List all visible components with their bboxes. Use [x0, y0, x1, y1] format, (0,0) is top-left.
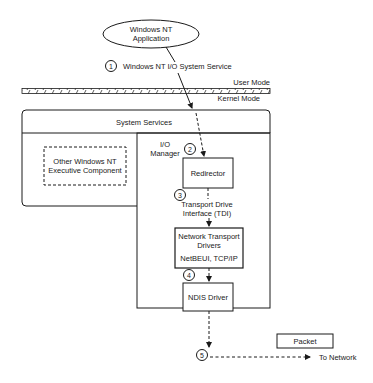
other-executive-component: Other Windows NT Executive Component — [44, 147, 126, 185]
ndis-label: NDIS Driver — [188, 293, 229, 302]
user-mode-label: User Mode — [233, 78, 270, 87]
packet-node: Packet — [277, 334, 333, 348]
tdi-label-line2: Interface (TDI) — [183, 209, 232, 218]
other-component-line2: Executive Component — [48, 166, 122, 175]
step-1-label: Windows NT I/O System Service — [123, 62, 232, 71]
application-label-line1: Windows NT — [130, 25, 173, 34]
transport-line2: Drivers — [197, 241, 221, 250]
tdi-label-line1: Transport Drive — [181, 200, 232, 209]
app-arrow-top — [166, 47, 175, 62]
step-1-number: 1 — [109, 63, 113, 70]
mode-boundary-bar — [22, 89, 270, 94]
ndis-driver-node: NDIS Driver — [183, 283, 233, 311]
transport-line3: NetBEUI, TCP/IP — [180, 254, 237, 263]
step-2-number: 2 — [188, 146, 192, 153]
transport-line1: Network Transport — [178, 232, 240, 241]
to-network-label: To Network — [319, 353, 357, 362]
step-5-number: 5 — [200, 352, 204, 359]
network-transport-node: Network Transport Drivers NetBEUI, TCP/I… — [175, 228, 243, 268]
step-1: 1 Windows NT I/O System Service — [106, 61, 232, 72]
application-node: Windows NT Application — [103, 20, 199, 48]
io-manager-line1: I/O — [160, 140, 170, 149]
other-component-line1: Other Windows NT — [53, 157, 117, 166]
application-label-line2: Application — [133, 34, 170, 43]
system-services-label: System Services — [116, 118, 172, 127]
step-3-number: 3 — [178, 192, 182, 199]
kernel-mode-label: Kernel Mode — [217, 94, 260, 103]
io-manager-line2: Manager — [150, 149, 180, 158]
packet-label: Packet — [294, 337, 318, 346]
redirector-label: Redirector — [191, 169, 226, 178]
network-io-diagram: Windows NT Application 1 Windows NT I/O … — [0, 0, 373, 383]
step-4-number: 4 — [187, 272, 191, 279]
redirector-node: Redirector — [183, 158, 233, 188]
